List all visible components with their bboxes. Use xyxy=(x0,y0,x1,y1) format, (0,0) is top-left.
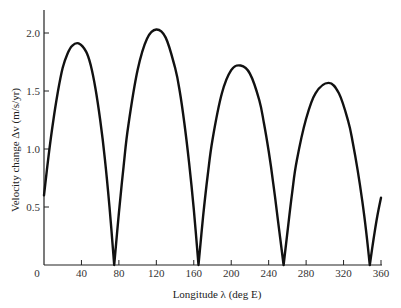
x-tick-label: 160 xyxy=(186,267,203,279)
x-tick-label: 360 xyxy=(373,267,390,279)
x-tick-label: 80 xyxy=(113,267,125,279)
x-tick-label: 120 xyxy=(148,267,165,279)
velocity-curve xyxy=(44,29,381,265)
x-ticks: 04080120160200240280320360 xyxy=(34,260,390,279)
y-tick-label: 0.5 xyxy=(26,201,40,213)
plot-area: 04080120160200240280320360 0.51.01.52.0 xyxy=(26,10,390,279)
x-tick-label: 0 xyxy=(34,267,40,279)
x-tick-label: 280 xyxy=(298,267,315,279)
x-tick-label: 40 xyxy=(76,267,88,279)
x-tick-label: 320 xyxy=(335,267,352,279)
y-axis-title: Velocity change Δv (m/s/yr) xyxy=(9,88,22,212)
y-tick-label: 1.5 xyxy=(26,85,40,97)
x-axis-title: Longitude λ (deg E) xyxy=(173,288,262,301)
y-tick-label: 2.0 xyxy=(26,27,40,39)
x-tick-label: 240 xyxy=(260,267,277,279)
y-tick-label: 1.0 xyxy=(26,143,40,155)
x-tick-label: 200 xyxy=(223,267,240,279)
velocity-change-chart: 04080120160200240280320360 0.51.01.52.0 … xyxy=(0,0,401,308)
